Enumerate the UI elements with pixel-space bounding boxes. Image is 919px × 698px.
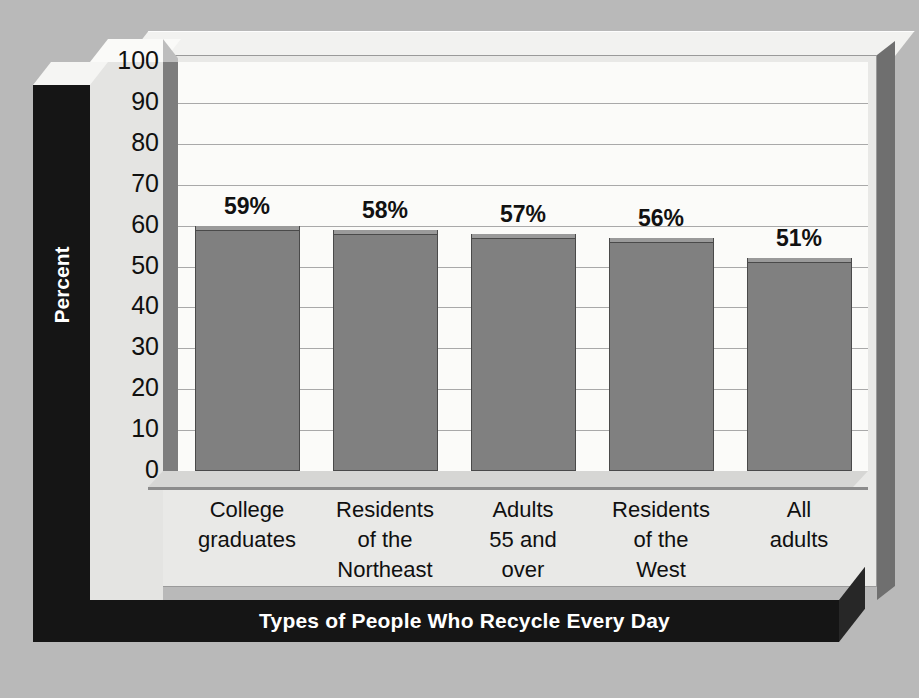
bar[interactable] [471,238,576,471]
y-axis-tick-label: 80 [131,127,159,157]
bar[interactable] [333,234,438,471]
bar[interactable] [747,262,852,471]
bar-slot: 56% [609,62,714,471]
bar[interactable] [609,242,714,471]
bar-slot: 51% [747,62,852,471]
bar-top-highlight [471,234,576,238]
recycling-bar-chart: 1009080706050403020100 59%58%57%56%51% C… [0,0,919,698]
y-axis-title-text: Percent [50,246,74,323]
y-axis-tick-label: 90 [131,86,159,116]
bar-top-highlight [747,258,852,262]
bars-layer: 59%58%57%56%51% [178,62,868,471]
x-axis-baseline [148,487,868,490]
bar-top-highlight [609,238,714,242]
bar-value-label: 56% [589,205,734,232]
category-label-line: All [718,495,880,525]
bar-value-label: 58% [313,197,458,224]
y-axis-title: Percent [33,85,90,485]
y-axis-tick-label: 40 [131,290,159,320]
y-axis-tick-label: 50 [131,250,159,280]
y-axis-tick-label: 100 [117,45,159,75]
bar-slot: 59% [195,62,300,471]
category-label: Alladults [718,495,880,555]
y-axis-tick-label: 10 [131,413,159,443]
bar-top-highlight [333,230,438,234]
x-axis-floor [148,471,868,487]
category-label-line: West [580,555,742,585]
y-axis-wall [163,62,178,471]
y-axis-tick-label: 20 [131,372,159,402]
panel-top-bevel [129,31,915,56]
y-axis-tick-strip: 1009080706050403020100 [90,62,163,642]
bar-value-label: 57% [451,201,596,228]
bar-value-label: 51% [727,225,872,252]
bar[interactable] [195,230,300,471]
bar-value-label: 59% [175,193,320,220]
y-axis-tick-label: 70 [131,168,159,198]
bar-slot: 57% [471,62,576,471]
x-axis-title: Types of People Who Recycle Every Day [90,600,839,642]
y-axis-tick-label: 60 [131,209,159,239]
bar-top-highlight [195,226,300,230]
category-label-line: adults [718,525,880,555]
y-axis-tick-label: 30 [131,331,159,361]
category-labels: CollegegraduatesResidentsof theNortheast… [178,495,868,595]
bar-slot: 58% [333,62,438,471]
